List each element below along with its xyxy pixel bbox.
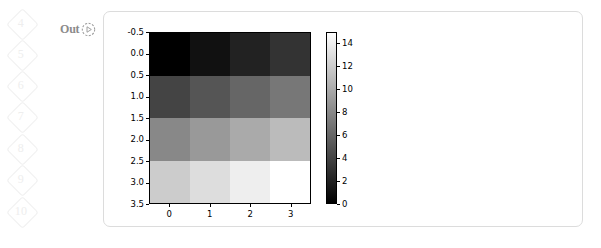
gutter-number-label: 7: [18, 110, 24, 122]
heatmap-cell: [230, 161, 270, 204]
heatmap-cell: [270, 76, 310, 119]
colorbar-tick-label: 4: [342, 154, 366, 163]
x-axis-tick-label: 3: [276, 210, 306, 219]
y-tick-mark: [146, 97, 149, 98]
matplotlib-figure: -0.50.00.51.01.52.02.53.03.5012314121086…: [104, 12, 584, 228]
x-tick-mark: [291, 204, 292, 207]
y-axis-tick-label: 2.0: [107, 135, 144, 144]
gutter-cell-number: 4: [4, 8, 38, 38]
output-cell-container: -0.50.00.51.01.52.02.53.03.5012314121086…: [103, 11, 583, 227]
colorbar-tick-label: 14: [342, 39, 366, 48]
y-tick-mark: [146, 32, 149, 33]
gutter-cell-number: 7: [4, 101, 38, 131]
heatmap-cell: [270, 161, 310, 204]
y-tick-mark: [146, 118, 149, 119]
colorbar-tick-mark: [337, 43, 340, 44]
colorbar-tick-mark: [337, 112, 340, 113]
colorbar-tick-label: 6: [342, 131, 366, 140]
colorbar-tick-mark: [337, 135, 340, 136]
heatmap-axes: [149, 32, 311, 204]
y-axis-tick-label: 1.0: [107, 92, 144, 101]
heatmap-cell: [190, 76, 230, 119]
x-tick-mark: [210, 204, 211, 207]
heatmap-cell: [270, 33, 310, 76]
heatmap-cell: [230, 33, 270, 76]
x-tick-mark: [250, 204, 251, 207]
colorbar-tick-label: 10: [342, 85, 366, 94]
colorbar-tick-mark: [337, 204, 340, 205]
heatmap-grid: [150, 33, 310, 203]
colorbar-tick-mark: [337, 158, 340, 159]
gutter-cell-number: 5: [4, 39, 38, 69]
gutter-number-label: 9: [18, 173, 24, 185]
x-axis-tick-label: 0: [154, 210, 184, 219]
y-axis-tick-label: 1.5: [107, 114, 144, 123]
gutter-number-label: 5: [18, 48, 24, 60]
y-axis-tick-label: 2.5: [107, 157, 144, 166]
heatmap-cell: [190, 118, 230, 161]
colorbar-tick-label: 2: [342, 177, 366, 186]
colorbar-tick-mark: [337, 89, 340, 90]
y-axis-tick-label: -0.5: [107, 28, 144, 37]
heatmap-cell: [230, 76, 270, 119]
y-tick-mark: [146, 183, 149, 184]
heatmap-cell: [150, 161, 190, 204]
play-circle-icon[interactable]: [81, 22, 96, 37]
heatmap-cell: [270, 118, 310, 161]
heatmap-cell: [230, 118, 270, 161]
y-axis-tick-label: 0.5: [107, 71, 144, 80]
gutter-cell-number: 9: [4, 164, 38, 194]
gutter-number-label: 8: [18, 142, 24, 154]
x-tick-mark: [169, 204, 170, 207]
x-axis-tick-label: 1: [195, 210, 225, 219]
y-tick-mark: [146, 161, 149, 162]
colorbar-tick-label: 8: [342, 108, 366, 117]
y-tick-mark: [146, 204, 149, 205]
colorbar-tick-mark: [337, 181, 340, 182]
colorbar-tick-mark: [337, 66, 340, 67]
y-tick-mark: [146, 75, 149, 76]
heatmap-cell: [190, 161, 230, 204]
heatmap-cell: [190, 33, 230, 76]
heatmap-cell: [150, 33, 190, 76]
gutter-cell-number: 8: [4, 133, 38, 163]
gutter-number-label: 10: [15, 205, 28, 217]
gutter-cell-number: 6: [4, 70, 38, 100]
notebook-gutter: 45678910: [0, 0, 46, 248]
colorbar-tick-label: 0: [342, 200, 366, 209]
y-axis-tick-label: 3.0: [107, 178, 144, 187]
gutter-number-label: 6: [18, 79, 24, 91]
x-axis-tick-label: 2: [235, 210, 265, 219]
y-tick-mark: [146, 140, 149, 141]
out-label: Out: [60, 22, 79, 37]
y-axis-tick-label: 3.5: [107, 200, 144, 209]
y-axis-tick-label: 0.0: [107, 49, 144, 58]
y-tick-mark: [146, 54, 149, 55]
heatmap-cell: [150, 76, 190, 119]
heatmap-cell: [150, 118, 190, 161]
gutter-cell-number: 10: [4, 196, 38, 226]
gutter-number-label: 4: [18, 17, 24, 29]
colorbar-tick-label: 12: [342, 62, 366, 71]
output-prompt: Out: [60, 22, 96, 37]
colorbar: [326, 32, 337, 204]
